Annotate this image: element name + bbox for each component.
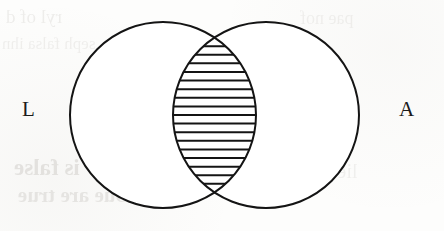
set-label-right: A — [399, 99, 415, 120]
venn-diagram — [0, 0, 444, 231]
diagram-page: ryl of d seph falsa ihn is false bue are… — [0, 0, 444, 231]
set-label-left: L — [22, 99, 35, 120]
